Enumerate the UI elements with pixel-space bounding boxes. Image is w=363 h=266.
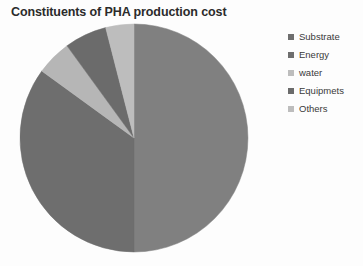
pie-slice[interactable] <box>134 24 248 252</box>
legend-item[interactable]: Substrate <box>288 28 360 45</box>
legend-item-label: Energy <box>299 50 329 60</box>
legend-item-label: Substrate <box>299 32 340 42</box>
chart-title: Constituents of PHA production cost <box>11 5 226 19</box>
legend-item[interactable]: Equipmets <box>288 82 360 99</box>
legend-swatch-icon <box>288 52 294 58</box>
legend-swatch-icon <box>288 88 294 94</box>
pie-slice-group <box>20 24 248 252</box>
legend-item-label: Equipmets <box>299 86 344 96</box>
pie-plot-area <box>18 22 250 254</box>
legend-item-label: Others <box>299 104 328 114</box>
chart-legend: SubstrateEnergywaterEquipmetsOthers <box>288 28 360 118</box>
legend-item-label: water <box>299 68 322 78</box>
pie-chart-figure: Constituents of PHA production cost Subs… <box>0 0 363 266</box>
legend-swatch-icon <box>288 34 294 40</box>
legend-item[interactable]: Others <box>288 100 360 117</box>
legend-item[interactable]: Energy <box>288 46 360 63</box>
legend-swatch-icon <box>288 70 294 76</box>
pie-svg <box>18 22 250 254</box>
legend-item[interactable]: water <box>288 64 360 81</box>
legend-swatch-icon <box>288 106 294 112</box>
